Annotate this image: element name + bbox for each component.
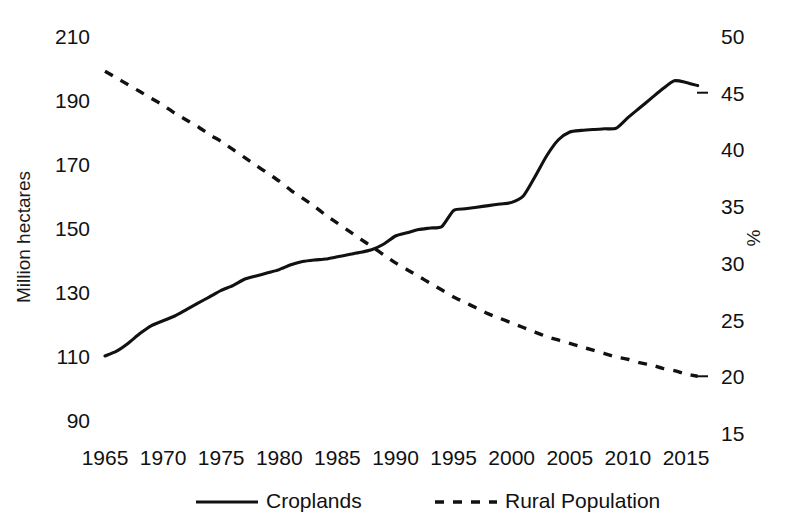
y2-axis-tick-labels: 1520253035404550 [721,25,744,445]
y-axis-tick-label: 150 [55,217,90,240]
chart-container: Million hectares % 90110130150170190210 … [0,0,787,529]
data-series-layer [105,71,698,376]
x-axis-tick-label: 2005 [546,446,593,469]
x-axis-tick-label: 1970 [140,446,187,469]
y2-axis-tick-label: 45 [721,82,744,105]
x-axis-tick-label: 2000 [488,446,535,469]
y2-axis-tick-label: 25 [721,309,744,332]
y2-axis-tick-label: 50 [721,25,744,48]
y-axis-tick-label: 170 [55,153,90,176]
x-axis-tick-label: 1990 [372,446,419,469]
x-axis-tick-label: 1995 [430,446,477,469]
x-axis-tick-labels: 1965197019751980198519901995200020052010… [82,446,710,469]
chart-legend: CroplandsRural Population [196,489,660,512]
y2-axis-tick-label: 20 [721,365,744,388]
y2-axis-tick-label: 35 [721,195,744,218]
y-axis-tick-labels: 90110130150170190210 [55,25,90,432]
y-axis-tick-label: 90 [67,409,90,432]
series-line-rural-population [105,71,698,376]
x-axis-tick-label: 2015 [663,446,710,469]
x-axis-tick-label: 1985 [314,446,361,469]
y-axis-tick-label: 130 [55,281,90,304]
y-axis-title: Million hectares [13,171,34,303]
axis-tick-marks [697,93,708,377]
x-axis-tick-label: 2010 [605,446,652,469]
x-axis-tick-label: 1965 [82,446,129,469]
y2-axis-tick-label: 30 [721,252,744,275]
line-chart: Million hectares % 90110130150170190210 … [0,0,787,529]
legend-label-rural-population: Rural Population [505,489,660,512]
x-axis-tick-label: 1975 [198,446,245,469]
series-line-croplands [105,81,698,356]
y2-axis-tick-label: 15 [721,422,744,445]
y2-axis-tick-label: 40 [721,138,744,161]
x-axis-tick-label: 1980 [256,446,303,469]
y-axis-tick-label: 110 [57,345,90,368]
y-axis-tick-label: 190 [55,89,90,112]
y-axis-tick-label: 210 [55,25,90,48]
legend-label-croplands: Croplands [266,489,362,512]
y2-axis-title: % [743,229,764,246]
